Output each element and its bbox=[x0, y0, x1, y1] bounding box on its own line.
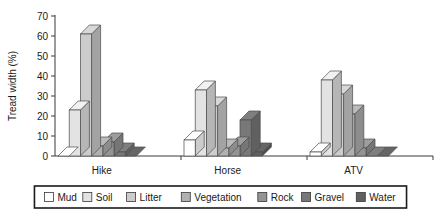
y-tick-label: 20 bbox=[37, 111, 49, 122]
bar-front-face bbox=[184, 140, 195, 156]
legend-item-water[interactable]: Water bbox=[356, 192, 396, 203]
x-category-label: Horse bbox=[214, 165, 241, 176]
legend-item-litter[interactable]: Litter bbox=[127, 192, 163, 203]
legend-label-soil: Soil bbox=[96, 192, 113, 203]
legend-swatch-soil bbox=[83, 193, 92, 202]
legend-label-litter: Litter bbox=[140, 192, 163, 203]
bar-side-face bbox=[218, 97, 227, 156]
y-tick-label: 50 bbox=[37, 51, 49, 62]
chart-container: 010203040506070Tread width (%)HikeHorseA… bbox=[0, 0, 441, 217]
bar-side-face bbox=[92, 25, 101, 156]
legend-label-mud: Mud bbox=[57, 192, 76, 203]
bar-group-hike bbox=[58, 25, 145, 156]
y-tick-label: 60 bbox=[37, 31, 49, 42]
legend-item-gravel[interactable]: Gravel bbox=[302, 192, 344, 203]
bar-side-face bbox=[332, 71, 341, 156]
grouped-3d-bar-chart: 010203040506070Tread width (%)HikeHorseA… bbox=[0, 0, 441, 217]
legend-item-rock[interactable]: Rock bbox=[258, 192, 295, 203]
bar-side-face bbox=[80, 101, 89, 156]
legend-item-vegetation[interactable]: Vegetation bbox=[181, 192, 241, 203]
legend-swatch-gravel bbox=[302, 193, 311, 202]
legend-label-vegetation: Vegetation bbox=[194, 192, 241, 203]
legend-label-rock: Rock bbox=[271, 192, 295, 203]
x-category-label: ATV bbox=[344, 165, 363, 176]
legend-swatch-rock bbox=[258, 193, 267, 202]
legend-item-soil[interactable]: Soil bbox=[83, 192, 113, 203]
y-axis-title: Tread width (%) bbox=[7, 51, 18, 121]
legend: MudSoilLitterVegetationRockGravelWater bbox=[34, 186, 406, 208]
bar-front-face bbox=[310, 152, 321, 156]
legend-label-gravel: Gravel bbox=[315, 192, 344, 203]
x-category-label: Hike bbox=[92, 165, 112, 176]
y-tick-label: 40 bbox=[37, 71, 49, 82]
legend-swatch-litter bbox=[127, 193, 136, 202]
bar-side-face bbox=[206, 81, 215, 156]
y-tick-label: 0 bbox=[42, 151, 48, 162]
legend-swatch-water bbox=[356, 193, 365, 202]
bar-side-face bbox=[344, 85, 353, 156]
bar-group-atv bbox=[310, 71, 397, 156]
y-tick-label: 70 bbox=[37, 11, 49, 22]
legend-swatch-vegetation bbox=[181, 193, 190, 202]
y-tick-label: 30 bbox=[37, 91, 49, 102]
legend-item-mud[interactable]: Mud bbox=[44, 192, 76, 203]
y-tick-label: 10 bbox=[37, 131, 49, 142]
legend-swatch-mud bbox=[44, 193, 53, 202]
bar-group-horse bbox=[184, 81, 271, 156]
legend-label-water: Water bbox=[369, 192, 396, 203]
